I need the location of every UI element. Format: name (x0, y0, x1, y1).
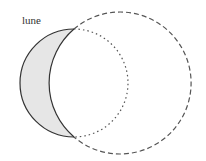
lune-diagram: lune (0, 0, 206, 161)
small-circle-hidden-arc (74, 29, 128, 137)
lune-region (20, 29, 74, 137)
lune-label: lune (22, 14, 41, 26)
large-circle-outer-arc (74, 12, 191, 154)
